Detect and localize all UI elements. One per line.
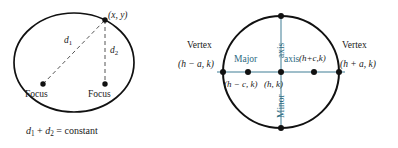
focus-left-dot [245, 69, 251, 75]
center-coords: (h, k) [264, 80, 283, 89]
point-on-ellipse-dot [102, 17, 107, 22]
vertex-right-label: Vertex [342, 41, 367, 51]
minor-axis-label-word2: axis [277, 43, 287, 58]
distance-1-label: d1 [64, 36, 72, 46]
caption-d1-subscript: 1 [31, 130, 35, 138]
ellipse-figure: (x, y) d1 d2 Focus Focus d1 + d2 = const… [0, 0, 398, 148]
vertex-left-label: Vertex [187, 41, 212, 51]
focus-left-coords: (h − c, k) [224, 80, 258, 89]
distance-1-subscript: 1 [69, 39, 72, 46]
distance-2-subscript: 2 [115, 49, 118, 56]
caption-constant-word: constant [64, 125, 97, 136]
co-vertex-bottom-dot [278, 125, 284, 131]
distance-2-label: d2 [110, 46, 118, 56]
focus-right-dot [311, 69, 317, 75]
distance-1-segment [43, 20, 105, 84]
co-vertex-top-dot [278, 13, 284, 19]
caption-plus-sign: + [37, 125, 43, 136]
caption-equals-sign: = [56, 125, 62, 136]
focus-right-coords: (h+c,k) [299, 54, 326, 63]
point-xy-label: (x, y) [108, 11, 128, 21]
right-diagram-panel: Vertex (h − a, k) Vertex (h + a, k) (h −… [199, 0, 398, 148]
vertex-left-coords: (h − a, k) [178, 60, 214, 70]
center-dot [278, 69, 284, 75]
caption-d2-subscript: 2 [50, 130, 54, 138]
sum-of-distances-caption: d1 + d2 = constant [26, 126, 98, 138]
vertex-right-dot [336, 69, 342, 75]
focus-left-label: Focus [25, 90, 48, 100]
focus-right-dot [102, 81, 107, 86]
focus-left-dot [40, 81, 45, 86]
right-diagram-graphics [199, 0, 398, 148]
minor-axis-label-word1: Minor [277, 94, 287, 118]
left-diagram-panel: (x, y) d1 d2 Focus Focus d1 + d2 = const… [0, 0, 199, 148]
vertex-left-dot [220, 69, 226, 75]
major-axis-label-word1: Major [234, 55, 257, 65]
focus-right-label: Focus [88, 90, 111, 100]
vertex-right-coords: (h + a, k) [340, 60, 376, 70]
